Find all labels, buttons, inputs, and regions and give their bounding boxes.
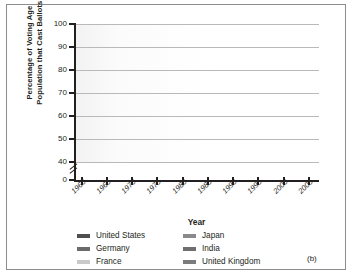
y-tick-label-0: 0 [45,176,67,184]
legend-label: Japan [202,231,224,240]
legend-item-japan[interactable]: Japan [183,229,260,242]
gridline-80 [75,70,319,71]
y-tick-label-90: 90 [45,43,67,51]
panel-label: (b) [307,254,317,263]
y-axis-break-icon [69,163,81,175]
gridline-50 [75,139,319,140]
y-axis-title: Percentage of Voting Age Population that… [25,0,44,123]
gridline-40 [75,162,319,163]
y-tick-90 [69,46,76,49]
legend-item-germany[interactable]: Germany [77,242,145,255]
legend-item-france[interactable]: France [77,255,145,268]
y-tick-label-70: 70 [45,89,67,97]
legend-swatch-icon [77,260,90,264]
legend-swatch-icon [183,234,196,238]
y-tick-label-80: 80 [45,66,67,74]
y-tick-100 [69,23,76,26]
figure-panel: Percentage of Voting Age Population that… [6,4,346,270]
y-tick-50 [69,138,76,141]
y-tick-label-60: 60 [45,112,67,120]
legend-label: France [96,257,121,266]
y-tick-40 [69,161,76,164]
y-tick-80 [69,69,76,72]
plot-area: 0405060708090100 19601965197019751980198… [74,24,319,162]
gridline-90 [75,47,319,48]
y-axis-title-line-2: Population that Cast Ballots [35,0,45,123]
y-tick-label-40: 40 [45,158,67,166]
legend-column-right: JapanIndiaUnited Kingdom [183,229,260,268]
legend-swatch-icon [183,247,196,251]
legend-swatch-icon [77,234,90,238]
legend-label: India [202,244,220,253]
y-axis-title-line-1: Percentage of Voting Age [25,0,35,123]
legend-item-united-kingdom[interactable]: United Kingdom [183,255,260,268]
y-tick-label-50: 50 [45,135,67,143]
gridline-70 [75,93,319,94]
legend-label: United States [96,231,145,240]
legend-swatch-icon [77,247,90,251]
legend-column-left: United StatesGermanyFrance [77,229,145,268]
legend-item-united-states[interactable]: United States [77,229,145,242]
legend-item-india[interactable]: India [183,242,260,255]
legend-label: United Kingdom [202,257,260,266]
x-axis-title: Year [74,217,319,227]
legend-swatch-icon [183,260,196,264]
y-tick-70 [69,92,76,95]
y-tick-60 [69,115,76,118]
y-tick-0 [69,179,76,182]
gridline-100 [75,24,319,25]
legend-label: Germany [96,244,130,253]
y-tick-label-100: 100 [45,20,67,28]
gridline-60 [75,116,319,117]
